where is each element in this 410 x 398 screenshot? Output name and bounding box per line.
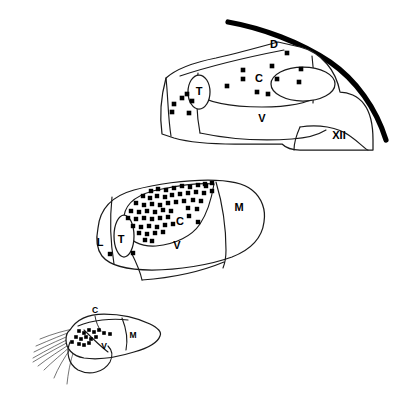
- site-marker: [161, 230, 165, 234]
- site-marker: [142, 216, 146, 220]
- site-marker: [196, 183, 200, 187]
- region-label-l: L: [97, 236, 104, 248]
- site-marker: [82, 331, 86, 335]
- site-marker: [131, 251, 135, 255]
- site-marker: [241, 77, 246, 82]
- site-marker: [178, 192, 182, 196]
- site-marker: [97, 328, 101, 332]
- site-marker: [166, 201, 170, 205]
- site-marker: [188, 185, 192, 189]
- site-marker: [166, 215, 170, 219]
- site-marker: [94, 335, 98, 339]
- site-marker: [145, 232, 149, 236]
- site-marker: [141, 194, 145, 198]
- site-marker: [147, 224, 151, 228]
- site-marker: [108, 332, 112, 336]
- site-marker: [164, 188, 168, 192]
- site-marker: [210, 189, 214, 193]
- bottom-panel: CMV: [33, 305, 161, 384]
- site-marker: [137, 210, 141, 214]
- site-marker: [182, 199, 186, 203]
- region-label-v: V: [173, 239, 181, 251]
- site-marker: [150, 217, 154, 221]
- site-marker: [153, 210, 157, 214]
- site-marker: [155, 225, 159, 229]
- site-marker: [187, 111, 192, 116]
- site-marker: [149, 189, 153, 193]
- site-marker: [153, 231, 157, 235]
- region-label-xii: XII: [332, 129, 345, 141]
- site-marker: [199, 199, 203, 203]
- site-marker: [172, 102, 177, 107]
- region-label-d: D: [270, 38, 278, 50]
- site-marker: [180, 184, 184, 188]
- site-marker: [150, 239, 154, 243]
- site-marker: [145, 209, 149, 213]
- caption-fragment: ____ __: [2, 391, 31, 398]
- region-label-m: M: [234, 201, 243, 213]
- site-marker: [241, 68, 246, 73]
- site-marker: [275, 77, 280, 82]
- site-marker: [87, 328, 91, 332]
- figure-root: DCVTXII CVMLT: [0, 0, 410, 398]
- site-marker: [142, 203, 146, 207]
- site-marker: [210, 181, 214, 185]
- site-marker: [82, 343, 86, 347]
- region-label-c: C: [255, 72, 263, 84]
- figure-canvas: DCVTXII CVMLT: [0, 0, 410, 398]
- region-label-t: T: [196, 85, 203, 97]
- site-marker: [126, 216, 130, 220]
- site-marker: [148, 196, 152, 200]
- site-marker: [196, 220, 200, 224]
- site-marker: [158, 216, 162, 220]
- site-marker: [74, 335, 78, 339]
- site-marker: [131, 224, 135, 228]
- site-marker: [143, 238, 147, 242]
- site-marker: [150, 202, 154, 206]
- region-label-t: T: [118, 233, 125, 245]
- site-marker: [203, 182, 207, 186]
- top-solitary-tract-oval-right: [271, 67, 335, 101]
- site-marker: [171, 222, 175, 226]
- site-marker: [84, 335, 88, 339]
- region-label-v: V: [101, 341, 107, 351]
- region-label-m: M: [129, 330, 136, 340]
- site-marker: [172, 186, 176, 190]
- site-marker: [108, 252, 112, 256]
- site-marker: [186, 206, 190, 210]
- site-marker: [170, 193, 174, 197]
- site-marker: [202, 191, 206, 195]
- site-marker: [194, 190, 198, 194]
- site-marker: [297, 80, 302, 85]
- site-marker: [270, 64, 275, 69]
- site-marker: [156, 187, 160, 191]
- site-marker: [92, 330, 96, 334]
- site-marker: [169, 209, 173, 213]
- top-panel: DCVTXII: [161, 22, 386, 150]
- region-label-c: C: [92, 305, 98, 315]
- site-marker: [70, 340, 74, 344]
- site-marker: [102, 331, 106, 335]
- site-marker: [155, 194, 159, 198]
- site-marker: [174, 200, 178, 204]
- site-marker: [170, 110, 175, 115]
- site-marker: [87, 341, 91, 345]
- middle-panel: CVMLT: [97, 180, 265, 280]
- site-marker: [77, 329, 81, 333]
- region-label-v: V: [258, 112, 266, 124]
- site-marker: [163, 195, 167, 199]
- site-marker: [79, 337, 83, 341]
- site-marker: [225, 84, 230, 89]
- site-marker: [89, 337, 93, 341]
- region-label-c: C: [176, 215, 184, 227]
- site-marker: [255, 90, 260, 95]
- site-marker: [158, 203, 162, 207]
- site-marker: [195, 207, 199, 211]
- site-marker: [129, 209, 133, 213]
- site-marker: [134, 217, 138, 221]
- site-marker: [134, 201, 138, 205]
- site-marker: [187, 214, 191, 218]
- bottom-panel-outline: [66, 314, 161, 359]
- site-marker: [186, 191, 190, 195]
- site-marker: [137, 231, 141, 235]
